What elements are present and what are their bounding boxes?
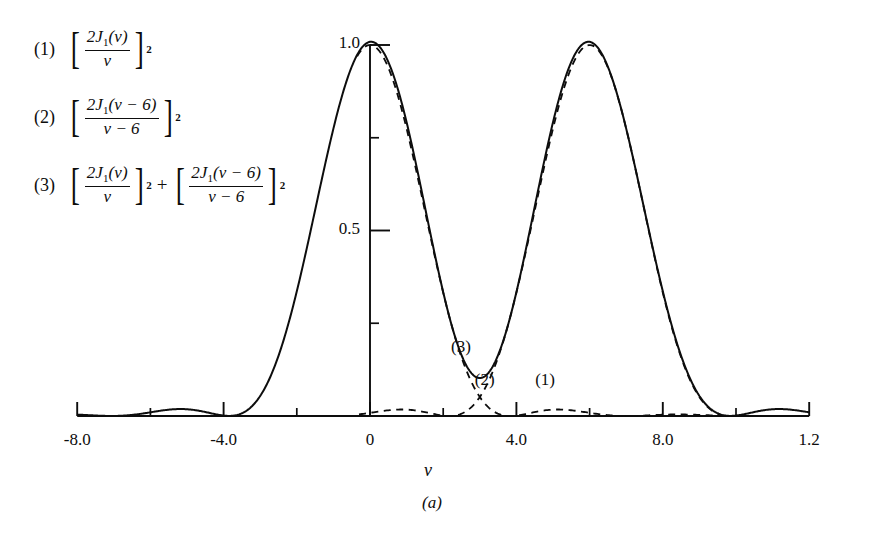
- curve-3-solid: [77, 42, 809, 416]
- x-axis-label: v: [424, 460, 432, 481]
- curve-annotation-3: (1): [535, 370, 555, 390]
- curve-annotation-2: (3): [451, 337, 471, 357]
- curve-2-dashed: [359, 45, 721, 416]
- x-tick-label: 1.2: [779, 430, 839, 450]
- x-tick-label: -4.0: [194, 430, 254, 450]
- figure-airy-resolution: (1) [ 2J1(v) v ]2 (2) [ 2J1(v − 6) v − 6…: [0, 0, 870, 545]
- plot-canvas: [0, 0, 870, 545]
- curve-annotation-1: (2): [475, 370, 495, 390]
- y-tick-label: 0.5: [304, 219, 360, 239]
- y-tick-label: 1.0: [304, 33, 360, 53]
- x-tick-label: -8.0: [47, 430, 107, 450]
- x-tick-label: 0: [340, 430, 400, 450]
- x-tick-label: 4.0: [486, 430, 546, 450]
- x-tick-label: 8.0: [633, 430, 693, 450]
- figure-caption: (a): [422, 493, 442, 513]
- curve-1-dashed: [357, 45, 720, 416]
